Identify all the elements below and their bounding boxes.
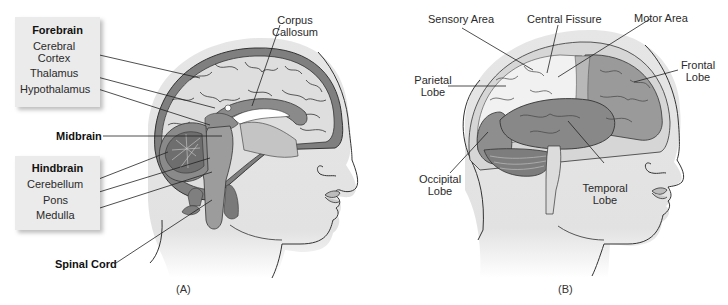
medulla-label: Medulla [36, 209, 75, 221]
occipital-lobe-line2: Lobe [428, 185, 452, 197]
occipital-lobe-line1: Occipital [419, 173, 461, 185]
thalamus-label: Thalamus [30, 67, 78, 79]
central-fissure-label: Central Fissure [527, 13, 602, 25]
pons-label: Pons [43, 194, 68, 206]
hindbrain-heading: Hindbrain [15, 162, 100, 174]
corpus-callosum-line1: Corpus [277, 14, 312, 26]
hypothalamus-label: Hypothalamus [20, 83, 90, 95]
parietal-lobe-label: Parietal Lobe [410, 74, 456, 98]
cerebral-cortex-line2: Cortex [38, 52, 70, 64]
cerebral-cortex-line1: Cerebral [33, 40, 75, 52]
corpus-callosum-line2: Callosum [272, 26, 318, 38]
forebrain-heading: Forebrain [15, 24, 100, 36]
spinal-cord-label: Spinal Cord [55, 258, 117, 270]
frontal-lobe-line2: Lobe [686, 71, 710, 83]
occipital-lobe-label: Occipital Lobe [415, 173, 465, 197]
head-sagittal-section [148, 38, 358, 278]
corpus-callosum-label: Corpus Callosum [265, 14, 325, 38]
frontal-lobe-line1: Frontal [681, 59, 715, 71]
temporal-lobe-label: Temporal Lobe [580, 182, 630, 206]
midbrain-label: Midbrain [56, 130, 102, 142]
cerebellum-label: Cerebellum [27, 178, 83, 190]
frontal-lobe-label: Frontal Lobe [676, 59, 720, 83]
temporal-lobe-line2: Lobe [593, 194, 617, 206]
panel-b-caption: (B) [558, 283, 573, 295]
cerebral-cortex-label: Cerebral Cortex [15, 40, 93, 64]
parietal-lobe-line2: Lobe [421, 86, 445, 98]
sensory-area-label: Sensory Area [428, 13, 494, 25]
panel-a-caption: (A) [176, 283, 191, 295]
parietal-lobe-line1: Parietal [414, 74, 451, 86]
motor-area-label: Motor Area [634, 12, 688, 24]
temporal-lobe-line1: Temporal [582, 182, 627, 194]
